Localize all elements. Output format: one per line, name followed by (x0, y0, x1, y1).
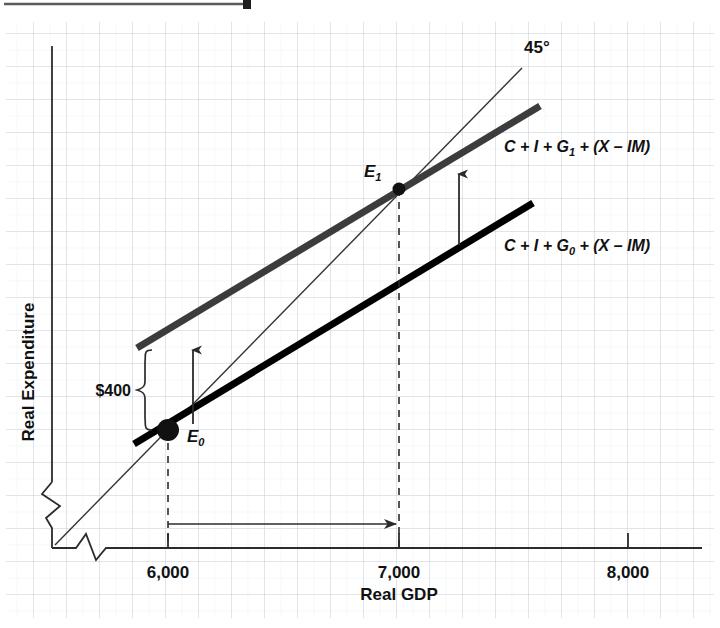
x-tick-label-8000: 8,000 (607, 563, 650, 582)
e1-base: E (364, 162, 376, 181)
angle-label: 45° (524, 38, 550, 57)
figure-container: Real Expenditure Real GDP 6,000 7,000 8,… (0, 0, 720, 628)
shift-amount-label: $400 (95, 382, 131, 399)
x-axis-title: Real GDP (360, 585, 437, 604)
curve-label-g1-post: + (X – IM) (575, 138, 650, 155)
equilibrium-point-e1 (393, 183, 406, 196)
e1-subscript: 1 (375, 171, 381, 183)
keynesian-cross-chart: Real Expenditure Real GDP 6,000 7,000 8,… (0, 0, 720, 628)
y-axis-title: Real Expenditure (19, 303, 38, 442)
e0-base: E (187, 427, 199, 446)
x-tick-label-7000: 7,000 (378, 563, 421, 582)
graph-paper-grid (6, 22, 714, 618)
x-tick-label-6000: 6,000 (147, 563, 190, 582)
e0-subscript: 0 (198, 436, 205, 448)
curve-label-g0-pre: C + I + G (504, 237, 569, 254)
curve-label-g1-pre: C + I + G (504, 138, 569, 155)
equilibrium-point-e0 (157, 419, 179, 441)
curve-label-g0-post: + (X – IM) (575, 237, 650, 254)
